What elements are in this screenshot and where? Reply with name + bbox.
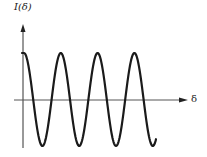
y-axis-label: I(δ) xyxy=(14,2,32,12)
x-axis-arrow-icon xyxy=(179,98,188,103)
intensity-plot xyxy=(0,0,207,157)
y-axis-arrow-icon xyxy=(21,24,26,32)
x-axis-label: δ xyxy=(191,94,197,104)
